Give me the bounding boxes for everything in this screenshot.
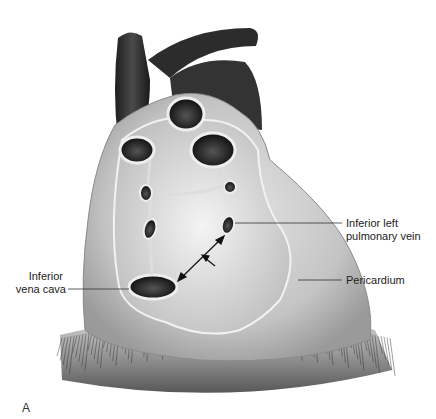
panel-label: A <box>22 401 30 415</box>
heart-diagram: Inferior left pulmonary vein Inferior ve… <box>0 0 436 419</box>
label-inferior-vena-cava: Inferior vena cava <box>16 270 67 295</box>
label-pericardium: Pericardium <box>346 274 405 286</box>
label-inferior-left-pulmonary-vein: Inferior left pulmonary vein <box>346 217 421 242</box>
inferior-vena-cava-opening <box>129 275 177 299</box>
